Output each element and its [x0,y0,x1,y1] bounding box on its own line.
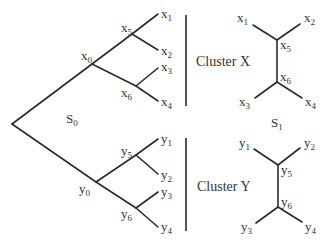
node-label-y0: y0 [79,181,91,198]
node-label-y4: y4 [161,219,173,236]
edge-root-x0 [12,64,92,124]
edge-x0-x6 [92,64,136,86]
rx-label-x5: x5 [280,37,292,54]
edge-rx-x1-x5 [253,25,277,40]
edge-y6-y4 [136,208,158,227]
node-label-y1: y1 [161,131,172,148]
right-tree-y: y1 y2 y5 y6 y3 y4 [239,135,317,236]
edge-y5-y1 [136,139,158,155]
edge-x0-x5 [92,34,132,64]
rx-label-x2: x2 [304,10,315,27]
tree-diagram: x1 x2 x3 x4 x5 x6 x0 y1 y2 y3 y4 y5 y6 y… [0,0,335,248]
edge-x5-x2 [132,34,158,50]
edge-x6-x4 [136,86,158,101]
node-label-x4: x4 [161,94,173,111]
node-label-x1: x1 [161,6,172,23]
ry-label-y3: y3 [241,219,253,236]
ry-label-y5: y5 [281,162,293,179]
rx-label-x6: x6 [280,69,292,86]
rx-label-x1: x1 [237,10,248,27]
edge-ry-y6-y3 [256,207,278,223]
left-tree-s0: x1 x2 x3 x4 x5 x6 x0 y1 y2 y3 y4 y5 y6 y… [12,6,173,236]
edge-root-y0 [12,124,96,182]
edge-rx-x6-x3 [255,82,277,98]
node-label-x6: x6 [121,85,133,102]
cluster-x-label: Cluster X [196,54,250,69]
edge-y6-y3 [136,192,158,208]
edge-x6-x3 [136,68,158,86]
edge-y0-y6 [96,182,136,208]
edge-y5-y2 [136,155,158,174]
tree-label-s0: S0 [66,111,78,128]
node-label-x3: x3 [161,59,173,76]
node-label-x0: x0 [81,48,93,65]
node-label-x5: x5 [121,20,133,37]
rx-label-x4: x4 [305,94,317,111]
node-label-y3: y3 [161,184,173,201]
node-label-y5: y5 [121,143,133,160]
cluster-y-label: Cluster Y [197,179,251,194]
rx-label-x3: x3 [239,94,251,111]
node-label-x2: x2 [161,43,172,60]
node-label-y6: y6 [121,206,133,223]
ry-label-y6: y6 [281,194,293,211]
ry-label-y4: y4 [305,219,317,236]
ry-label-y1: y1 [239,135,250,152]
ry-label-y2: y2 [304,135,315,152]
right-tree-x: x1 x2 x5 x6 x3 x4 S1 [237,10,317,132]
edge-x5-x1 [132,14,158,34]
edge-ry-y1-y5 [254,149,278,165]
tree-label-s1: S1 [271,115,283,132]
node-label-y2: y2 [161,167,172,184]
